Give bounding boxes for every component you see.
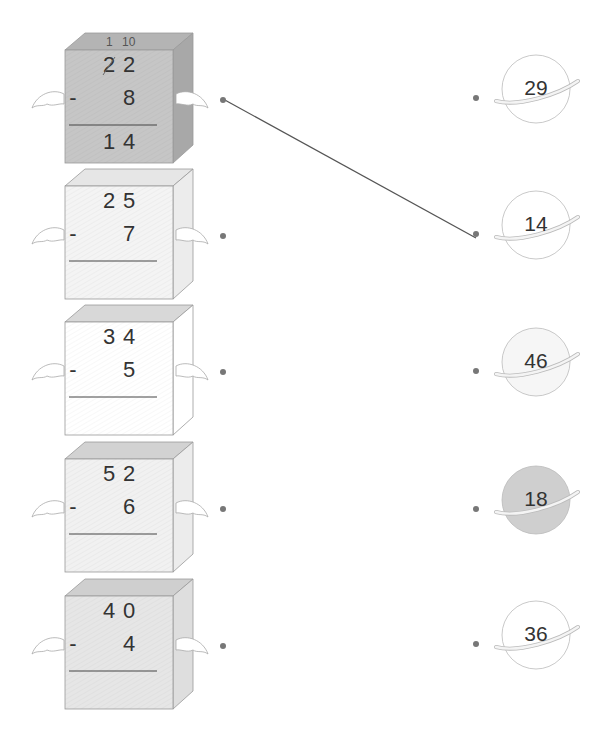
answer-value: 14	[500, 191, 572, 257]
answer-ones[interactable]	[121, 265, 137, 291]
minus-sign: -	[65, 494, 81, 520]
strike-icon	[99, 53, 119, 77]
minuend-ones: 5	[121, 188, 137, 214]
answer-ones[interactable]	[121, 538, 137, 564]
minuend-tens: 5	[101, 461, 117, 487]
left-wing-icon	[31, 499, 65, 521]
answer-tens[interactable]	[101, 675, 117, 701]
problem-card-5: 4 0 - 4	[65, 579, 193, 709]
problem-connector-dot[interactable]	[220, 233, 226, 239]
carry-tens: 1	[106, 35, 113, 49]
left-wing-icon	[31, 362, 65, 384]
connection-line	[223, 99, 476, 238]
subtrahend: 8	[121, 85, 137, 111]
answer-connector-dot[interactable]	[473, 231, 479, 237]
answer-planet-29[interactable]: 29	[500, 55, 572, 127]
minuend-tens: 2	[101, 188, 117, 214]
problem-card-4: 5 2 - 6	[65, 442, 193, 572]
right-wing-icon	[175, 499, 209, 521]
left-wing-icon	[31, 226, 65, 248]
answer-planet-14[interactable]: 14	[500, 191, 572, 263]
carry-ones: 10	[122, 35, 135, 49]
minuend-ones: 0	[121, 598, 137, 624]
minus-sign: -	[65, 357, 81, 383]
answer-planet-36[interactable]: 36	[500, 601, 572, 673]
answer-connector-dot[interactable]	[473, 368, 479, 374]
minus-sign: -	[65, 221, 81, 247]
minuend-tens: 4	[101, 598, 117, 624]
minus-sign: -	[65, 631, 81, 657]
answer-connector-dot[interactable]	[473, 641, 479, 647]
problem-card-1: 2 2 - 8 1 4 1 10	[65, 33, 193, 163]
minuend-ones: 4	[121, 324, 137, 350]
answer-value: 29	[500, 55, 572, 121]
minuend-tens: 3	[101, 324, 117, 350]
answer-value: 46	[500, 328, 572, 394]
answer-planet-18[interactable]: 18	[500, 466, 572, 538]
left-wing-icon	[31, 90, 65, 112]
problem-connector-dot[interactable]	[220, 97, 226, 103]
problem-connector-dot[interactable]	[220, 643, 226, 649]
answer-connector-dot[interactable]	[473, 95, 479, 101]
problem-connector-dot[interactable]	[220, 506, 226, 512]
answer-planet-46[interactable]: 46	[500, 328, 572, 400]
subtrahend: 6	[121, 494, 137, 520]
right-wing-icon	[175, 226, 209, 248]
answer-ones: 4	[121, 129, 137, 155]
subtrahend: 5	[121, 357, 137, 383]
problem-connector-dot[interactable]	[220, 369, 226, 375]
subtrahend: 7	[121, 221, 137, 247]
answer-ones[interactable]	[121, 675, 137, 701]
answer-value: 18	[500, 466, 572, 532]
minus-sign: -	[65, 85, 81, 111]
subtrahend: 4	[121, 631, 137, 657]
answer-ones[interactable]	[121, 401, 137, 427]
answer-tens[interactable]	[101, 401, 117, 427]
minuend-ones: 2	[121, 52, 137, 78]
left-wing-icon	[31, 636, 65, 658]
minuend-ones: 2	[121, 461, 137, 487]
right-wing-icon	[175, 90, 209, 112]
problem-card-2: 2 5 - 7	[65, 169, 193, 299]
right-wing-icon	[175, 636, 209, 658]
answer-value: 36	[500, 601, 572, 667]
answer-tens: 1	[101, 129, 117, 155]
answer-connector-dot[interactable]	[473, 506, 479, 512]
problem-card-3: 3 4 - 5	[65, 305, 193, 435]
answer-tens[interactable]	[101, 265, 117, 291]
answer-tens[interactable]	[101, 538, 117, 564]
right-wing-icon	[175, 362, 209, 384]
